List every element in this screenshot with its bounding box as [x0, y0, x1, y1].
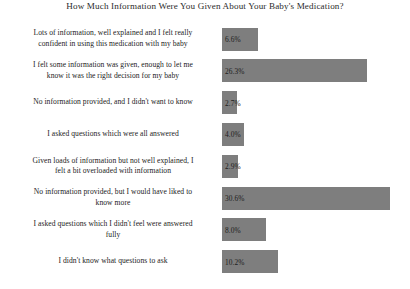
bar-value-label: 2.7% [225, 98, 241, 107]
bar-container: 30.6% [222, 183, 390, 213]
bar: 8.0% [222, 218, 266, 241]
bar-container: 26.3% [222, 56, 367, 86]
chart-row: I didn't know what questions to ask10.2% [0, 247, 410, 277]
category-label-line: Lots of information, well explained and … [34, 28, 193, 39]
category-label-line: No information provided, but I would hav… [34, 187, 192, 198]
chart-title: How Much Information Were You Given Abou… [0, 1, 410, 12]
bar-container: 2.9% [222, 151, 238, 181]
chart-row: I asked questions which I didn't feel we… [0, 215, 410, 245]
bar: 10.2% [222, 250, 278, 273]
chart-row: No information provided, and I didn't wa… [0, 88, 410, 118]
bar: 2.7% [222, 91, 237, 114]
bar-container: 6.6% [222, 24, 258, 54]
chart-row: Given loads of information but not well … [0, 151, 410, 181]
category-label: No information provided, but I would hav… [8, 183, 218, 213]
bar: 4.0% [222, 123, 244, 146]
category-label-line: I asked questions which were all answere… [47, 129, 179, 140]
category-label-line: felt a bit overloaded with information [55, 166, 171, 177]
category-label: I asked questions which were all answere… [8, 119, 218, 149]
bar-value-label: 8.0% [225, 225, 241, 234]
bar: 30.6% [222, 187, 390, 210]
category-label: I felt some information was given, enoug… [8, 56, 218, 86]
category-label: No information provided, and I didn't wa… [8, 88, 218, 118]
bar-value-label: 10.2% [225, 257, 245, 266]
bar-chart: How Much Information Were You Given Abou… [0, 0, 410, 289]
chart-row: No information provided, but I would hav… [0, 183, 410, 213]
category-label-line: know it was the right decision for my ba… [47, 71, 179, 82]
bar-value-label: 30.6% [225, 194, 245, 203]
bar: 26.3% [222, 59, 367, 82]
category-label-line: I asked questions which I didn't feel we… [33, 219, 192, 230]
category-label-line: confident in using this medication with … [38, 39, 187, 50]
chart-plot-area: Lots of information, well explained and … [0, 24, 410, 286]
category-label-line: fully [106, 230, 121, 241]
category-label-line: No information provided, and I didn't wa… [33, 97, 193, 108]
bar-container: 4.0% [222, 119, 244, 149]
category-label: I didn't know what questions to ask [8, 247, 218, 277]
category-label-line: I didn't know what questions to ask [58, 256, 167, 267]
chart-row: Lots of information, well explained and … [0, 24, 410, 54]
bar-value-label: 2.9% [225, 162, 241, 171]
category-label: Lots of information, well explained and … [8, 24, 218, 54]
category-label: I asked questions which I didn't feel we… [8, 215, 218, 245]
bar-value-label: 4.0% [225, 130, 241, 139]
chart-row: I felt some information was given, enoug… [0, 56, 410, 86]
chart-row: I asked questions which were all answere… [0, 119, 410, 149]
category-label-line: Given loads of information but not well … [33, 156, 194, 167]
bar-container: 2.7% [222, 88, 237, 118]
bar: 6.6% [222, 28, 258, 51]
category-label-line: know more [96, 198, 131, 209]
bar: 2.9% [222, 155, 238, 178]
bar-value-label: 6.6% [225, 35, 241, 44]
bar-container: 10.2% [222, 247, 278, 277]
bar-container: 8.0% [222, 215, 266, 245]
category-label: Given loads of information but not well … [8, 151, 218, 181]
category-label-line: I felt some information was given, enoug… [33, 60, 193, 71]
bar-value-label: 26.3% [225, 66, 245, 75]
